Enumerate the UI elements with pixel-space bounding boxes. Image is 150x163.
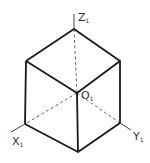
x-axis xyxy=(11,124,25,132)
visible-edges xyxy=(25,29,120,152)
z-axis-label: Z1 xyxy=(78,11,90,24)
y-axis-label: Y1 xyxy=(132,130,144,143)
y-axis xyxy=(120,123,131,130)
isometric-cube-diagram: Z1 O1 X1 Y1 xyxy=(0,0,150,163)
x-axis-label: X1 xyxy=(12,135,24,148)
hidden-edges xyxy=(25,29,120,124)
origin-label: O1 xyxy=(81,89,94,102)
